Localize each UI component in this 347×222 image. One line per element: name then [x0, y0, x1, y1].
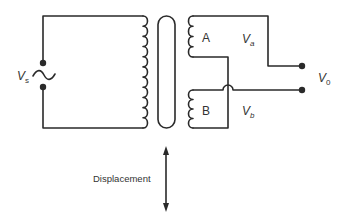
output-terminal-top	[299, 63, 305, 69]
secondary-coil-a-icon	[189, 16, 194, 57]
displacement-label: Displacement	[93, 173, 151, 184]
output-terminal-bottom	[299, 87, 305, 93]
ac-source-icon	[33, 71, 55, 80]
coil-b-top-wire	[193, 85, 302, 90]
va-label: Va	[242, 32, 255, 48]
secondary-coil-b-icon	[189, 90, 194, 128]
source-terminal-bottom	[40, 84, 46, 90]
arrow-up-icon	[163, 146, 169, 155]
coil-a-label: A	[202, 31, 210, 45]
primary-wire	[43, 16, 143, 128]
lvdt-diagram: Vs A B Va Vb V0 Displacement	[0, 0, 347, 222]
vb-label: Vb	[242, 104, 255, 120]
coil-b-label: B	[202, 104, 210, 118]
movable-core	[158, 16, 175, 128]
arrow-down-icon	[163, 203, 169, 212]
source-label: Vs	[17, 69, 29, 85]
coil-a-bottom-wire	[193, 57, 228, 128]
source-terminal-top	[40, 60, 46, 66]
primary-coil-icon	[143, 16, 148, 128]
output-label: V0	[318, 71, 331, 87]
